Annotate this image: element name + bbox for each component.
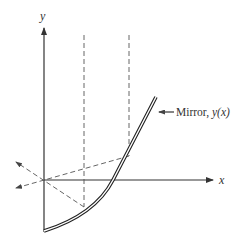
- mirror-curve: [44, 97, 156, 231]
- x-axis-label: x: [218, 173, 225, 187]
- mirror-label: Mirror, y(x): [176, 106, 230, 119]
- y-axis-label: y: [39, 9, 46, 23]
- mirror-diagram: y x Mirror, y(x): [0, 0, 241, 246]
- mirror-curve-inner: [44, 97, 156, 231]
- reflected-ray-1: [16, 162, 84, 207]
